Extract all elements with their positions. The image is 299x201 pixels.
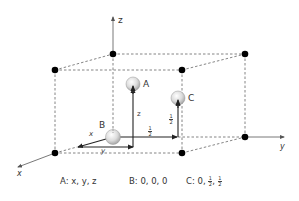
vertices <box>52 51 249 157</box>
half-z-label: 12 <box>169 114 173 125</box>
vector-x-label: x <box>89 131 93 138</box>
z-axis-label: z <box>118 16 123 25</box>
point-a-label: A <box>143 80 149 89</box>
coord-c: C: 0, 12, 12 <box>186 176 222 187</box>
x-axis <box>18 153 55 167</box>
vectors <box>78 88 178 147</box>
coord-b: B: 0, 0, 0 <box>129 176 167 186</box>
vector-y-label: y <box>101 148 105 155</box>
atom-b <box>106 130 121 145</box>
coord-a: A: x, y, z <box>60 176 97 186</box>
y-axis-label: y <box>280 143 285 151</box>
axes <box>18 17 284 167</box>
vector-z-label: z <box>137 111 141 118</box>
half-y-label: 12 <box>148 126 152 137</box>
point-c-label: C <box>188 94 194 103</box>
point-b-label: B <box>99 121 105 130</box>
cube-edges <box>55 54 245 153</box>
unit-cell-diagram <box>0 0 299 201</box>
x-axis-label: x <box>17 170 22 178</box>
